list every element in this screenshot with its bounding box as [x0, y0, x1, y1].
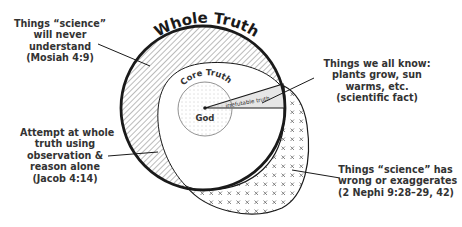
- callout-wrong-exaggerates: Things “science” has wrong or exaggerate…: [338, 164, 453, 198]
- callout-never-understand: Things “science” will never understand (…: [10, 18, 110, 64]
- god-label: God: [196, 113, 215, 123]
- god-point: [203, 106, 207, 110]
- callout-all-know: Things we all know: plants grow, sun war…: [312, 58, 442, 104]
- callout-observation-reason: Attempt at whole truth using observation…: [20, 127, 110, 184]
